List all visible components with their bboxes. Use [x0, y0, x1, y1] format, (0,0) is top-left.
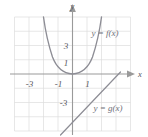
x-tick-label-neg1: -1 — [55, 79, 63, 89]
y-axis-name-label: y — [70, 1, 75, 11]
y-tick-label-neg3: -3 — [60, 98, 68, 108]
x-tick-label-1: 1 — [85, 79, 90, 89]
x-axis-name-label: x — [137, 69, 142, 79]
y-tick-label-3: 3 — [63, 41, 69, 51]
x-axis-arrow-icon — [127, 71, 135, 78]
curve-f-annotation-label: y = f(x) — [90, 28, 118, 38]
x-tick-label-neg3: -3 — [26, 79, 34, 89]
curve-g-annotation-label: y = g(x) — [92, 103, 122, 113]
y-tick-label-1: 1 — [64, 58, 69, 68]
graph-figure: -3 -1 1 3 1 -3 x y y = f(x) y = g(x) — [0, 0, 148, 137]
coordinate-plane-svg: -3 -1 1 3 1 -3 x y y = f(x) y = g(x) — [0, 0, 148, 137]
y-axis — [69, 4, 76, 135]
